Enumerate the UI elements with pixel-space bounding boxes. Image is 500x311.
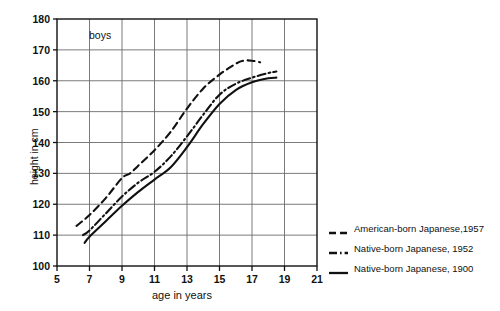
y-axis-tick-label: 170 [22,44,50,56]
series-line-3 [85,78,277,243]
legend-swatch-3 [328,268,350,278]
chart-figure: 1001101201301401501601701805791113151719… [0,0,500,311]
legend-label-1: American-born Japanese,1957 [354,223,484,234]
gridlines [57,19,317,266]
legend-swatch-1 [328,228,350,238]
legend-label-3: Native-born Japanese, 1900 [354,263,473,274]
legend-swatch-2 [328,248,350,258]
x-axis-tick-label: 15 [208,273,232,285]
x-axis-tick-label: 17 [240,273,264,285]
y-axis-tick-label: 120 [22,198,50,210]
y-axis-tick-label: 160 [22,75,50,87]
x-axis-tick-label: 7 [78,273,102,285]
y-axis-tick-label: 110 [22,229,50,241]
x-axis-tick-label: 5 [45,273,69,285]
x-axis-tick-label: 9 [110,273,134,285]
x-axis-tick-label: 19 [273,273,297,285]
x-axis-tick-label: 11 [143,273,167,285]
data-series-group [77,60,277,242]
legend-label-2: Native-born Japanese, 1952 [354,243,473,254]
x-axis-tick-label: 21 [305,273,329,285]
y-axis-title: height in cm [28,128,40,185]
series-line-2 [83,71,276,235]
y-axis-tick-label: 180 [22,13,50,25]
y-axis-tick-label: 150 [22,106,50,118]
x-axis-tick-label: 13 [175,273,199,285]
x-axis-title: age in years [152,289,212,301]
panel-annotation-boys: boys [89,29,111,41]
y-axis-tick-label: 100 [22,260,50,272]
